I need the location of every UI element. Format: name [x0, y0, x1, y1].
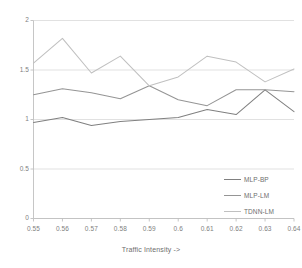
legend-item-label: MLP-LM: [244, 192, 269, 199]
legend-item-label: MLP-BP: [244, 176, 269, 183]
legend-color-swatch: [224, 195, 241, 196]
y-tick-label: 0.5: [6, 165, 29, 172]
x-tick-label: 0.6: [162, 225, 194, 232]
chart-legend: MLP-BPMLP-LMTDNN-LM: [224, 171, 298, 219]
series-line-tdnn-lm: [34, 38, 295, 86]
y-tick-label: 1.5: [6, 66, 29, 73]
x-tick-label: 0.57: [75, 225, 107, 232]
x-tick-label: 0.58: [104, 225, 136, 232]
legend-item-mlp-bp[interactable]: MLP-BP: [224, 171, 298, 187]
x-tick-label: 0.62: [220, 225, 252, 232]
line-chart: 00.511.52 0.550.560.570.580.590.60.610.6…: [0, 0, 302, 268]
series-line-mlp-lm: [34, 86, 295, 106]
x-tick-label: 0.55: [18, 225, 50, 232]
series-line-mlp-bp: [34, 90, 295, 126]
legend-item-tdnn-lm[interactable]: TDNN-LM: [224, 203, 298, 219]
legend-color-swatch: [224, 211, 241, 212]
x-axis-title: Traffic Intensity ->: [0, 246, 302, 253]
legend-item-mlp-lm[interactable]: MLP-LM: [224, 187, 298, 203]
data-series: [34, 38, 295, 125]
y-tick-label: 2: [6, 16, 29, 23]
x-tick-label: 0.59: [133, 225, 165, 232]
x-tick-label: 0.63: [249, 225, 281, 232]
x-tick-label: 0.61: [191, 225, 223, 232]
x-tick-label: 0.56: [46, 225, 78, 232]
y-tick-label: 0: [6, 214, 29, 221]
x-tick-label: 0.64: [278, 225, 302, 232]
y-tick-label: 1: [6, 115, 29, 122]
legend-item-label: TDNN-LM: [244, 208, 274, 215]
legend-color-swatch: [224, 179, 241, 180]
